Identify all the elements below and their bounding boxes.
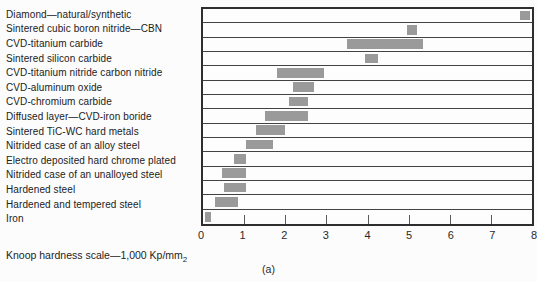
chart-row bbox=[203, 124, 532, 138]
hardness-chart-figure: Diamond—natural/syntheticSintered cubic … bbox=[0, 0, 537, 282]
chart-row bbox=[203, 23, 532, 37]
chart-row bbox=[203, 52, 532, 66]
category-label: Nitrided case of an unalloyed steel bbox=[6, 168, 198, 183]
category-label: Sintered TiC-WC hard metals bbox=[6, 124, 198, 139]
category-label: CVD-chromium carbide bbox=[6, 95, 198, 110]
range-bar bbox=[293, 82, 314, 92]
tick-mark bbox=[450, 215, 451, 224]
tick-label: 6 bbox=[448, 229, 454, 241]
range-bar bbox=[277, 68, 324, 78]
tick-label: 4 bbox=[364, 229, 370, 241]
tick-mark bbox=[244, 215, 245, 224]
category-label: Iron bbox=[6, 211, 198, 226]
range-bar bbox=[265, 111, 308, 121]
category-label: Sintered cubic boron nitride—CBN bbox=[6, 22, 198, 37]
chart-row bbox=[203, 181, 532, 195]
category-label: Nitrided case of an alloy steel bbox=[6, 138, 198, 153]
tick-mark bbox=[368, 215, 369, 224]
range-bar bbox=[224, 183, 247, 193]
range-bar bbox=[246, 140, 273, 150]
category-label: CVD-aluminum oxide bbox=[6, 80, 198, 95]
x-axis: 012345678 bbox=[201, 229, 534, 243]
x-axis-caption: Knoop hardness scale—1,000 Kp/mm2 bbox=[6, 249, 187, 264]
category-label: Hardened steel bbox=[6, 182, 198, 197]
category-label: CVD-titanium nitride carbon nitride bbox=[6, 65, 198, 80]
range-bar bbox=[407, 25, 417, 35]
tick-label: 7 bbox=[489, 229, 495, 241]
range-bar bbox=[234, 154, 246, 164]
range-bar bbox=[520, 11, 530, 21]
x-axis-caption-text: Knoop hardness scale—1,000 Kp/mm bbox=[6, 249, 183, 261]
chart-row bbox=[203, 195, 532, 209]
tick-mark bbox=[491, 215, 492, 224]
range-bar bbox=[289, 97, 308, 107]
tick-mark bbox=[326, 215, 327, 224]
category-labels: Diamond—natural/syntheticSintered cubic … bbox=[6, 7, 198, 226]
tick-label: 2 bbox=[281, 229, 287, 241]
chart-row bbox=[203, 66, 532, 80]
chart-row bbox=[203, 138, 532, 152]
chart-row bbox=[203, 152, 532, 166]
tick-label: 5 bbox=[406, 229, 412, 241]
category-label: Electro deposited hard chrome plated bbox=[6, 153, 198, 168]
range-bar bbox=[256, 125, 285, 135]
tick-mark bbox=[409, 215, 410, 224]
category-label: Diffused layer—CVD-iron boride bbox=[6, 109, 198, 124]
plot-area bbox=[201, 7, 534, 226]
range-bar bbox=[215, 197, 238, 207]
panel-label: (a) bbox=[0, 263, 537, 275]
range-bar bbox=[347, 39, 423, 49]
chart-row bbox=[203, 95, 532, 109]
range-bar bbox=[205, 212, 211, 222]
chart-row bbox=[203, 81, 532, 95]
chart-row bbox=[203, 167, 532, 181]
tick-label: 1 bbox=[240, 229, 246, 241]
category-label: Sintered silicon carbide bbox=[6, 51, 198, 66]
range-bar bbox=[365, 54, 377, 64]
tick-label: 0 bbox=[198, 229, 204, 241]
chart-row bbox=[203, 109, 532, 123]
category-label: Hardened and tempered steel bbox=[6, 197, 198, 212]
range-bar bbox=[222, 168, 247, 178]
tick-mark bbox=[285, 215, 286, 224]
category-label: Diamond—natural/synthetic bbox=[6, 7, 198, 22]
category-label: CVD-titanium carbide bbox=[6, 36, 198, 51]
chart-row bbox=[203, 9, 532, 23]
chart-row bbox=[203, 38, 532, 52]
tick-label: 8 bbox=[531, 229, 537, 241]
tick-label: 3 bbox=[323, 229, 329, 241]
